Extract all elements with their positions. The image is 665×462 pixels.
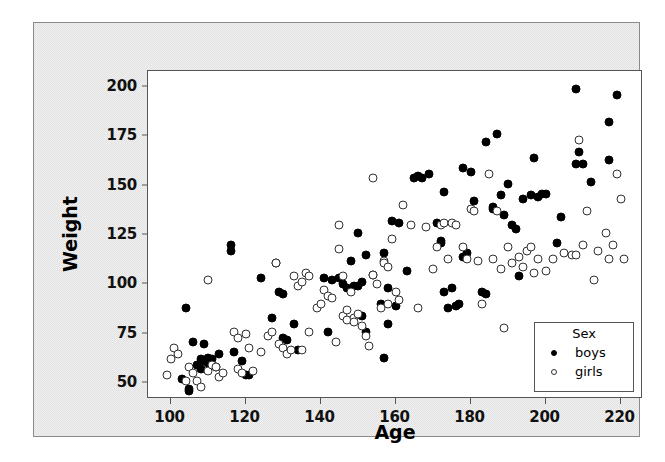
legend-label-girls: girls: [575, 364, 603, 379]
data-point-boys: [402, 266, 411, 275]
x-tick-mark: [245, 398, 246, 404]
data-point-girls: [181, 377, 190, 386]
data-point-girls: [470, 207, 479, 216]
data-point-boys: [324, 327, 333, 336]
data-point-girls: [241, 329, 250, 338]
data-point-boys: [357, 278, 366, 287]
data-point-girls: [534, 254, 543, 263]
data-point-girls: [237, 369, 246, 378]
data-point-girls: [219, 369, 228, 378]
data-point-boys: [346, 256, 355, 265]
data-point-boys: [354, 229, 363, 238]
data-point-girls: [594, 246, 603, 255]
data-point-boys: [504, 179, 513, 188]
data-point-girls: [549, 254, 558, 263]
data-point-boys: [530, 153, 539, 162]
data-point-girls: [297, 345, 306, 354]
data-point-girls: [601, 229, 610, 238]
data-point-girls: [605, 254, 614, 263]
x-tick-mark: [170, 398, 171, 404]
data-point-girls: [335, 244, 344, 253]
data-point-girls: [526, 242, 535, 251]
data-point-boys: [511, 225, 520, 234]
scatter-plot-figure: Weight 5075100125150175200 1001201401601…: [0, 0, 665, 462]
data-point-girls: [316, 300, 325, 309]
data-point-girls: [620, 254, 629, 263]
legend-label-boys: boys: [575, 345, 606, 360]
data-point-boys: [496, 191, 505, 200]
data-point-girls: [271, 258, 280, 267]
data-point-boys: [579, 159, 588, 168]
data-point-girls: [369, 173, 378, 182]
data-point-girls: [361, 331, 370, 340]
data-point-girls: [541, 266, 550, 275]
data-point-boys: [279, 290, 288, 299]
data-point-boys: [515, 272, 524, 281]
data-point-girls: [357, 321, 366, 330]
data-point-girls: [414, 304, 423, 313]
data-point-girls: [256, 347, 265, 356]
data-point-boys: [541, 189, 550, 198]
data-point-girls: [384, 300, 393, 309]
data-point-boys: [290, 319, 299, 328]
data-point-girls: [504, 242, 513, 251]
data-point-girls: [335, 221, 344, 230]
data-point-girls: [477, 300, 486, 309]
data-point-boys: [481, 290, 490, 299]
data-point-girls: [432, 242, 441, 251]
legend-box: Sex boys girls: [534, 322, 634, 392]
data-point-boys: [226, 246, 235, 255]
data-point-girls: [327, 294, 336, 303]
data-point-girls: [399, 201, 408, 210]
legend-item-girls: girls: [535, 362, 633, 381]
data-point-girls: [616, 195, 625, 204]
data-point-boys: [395, 219, 404, 228]
data-point-girls: [245, 343, 254, 352]
x-tick-mark: [395, 398, 396, 404]
legend-marker-boys-icon: [547, 350, 561, 356]
legend-marker-girls-icon: [547, 369, 561, 375]
data-point-boys: [267, 313, 276, 322]
data-point-girls: [500, 323, 509, 332]
data-point-boys: [605, 155, 614, 164]
x-tick-mark: [545, 398, 546, 404]
data-point-girls: [305, 272, 314, 281]
data-point-boys: [185, 387, 194, 396]
data-point-girls: [444, 254, 453, 263]
data-point-girls: [342, 306, 351, 315]
data-point-girls: [395, 296, 404, 305]
data-point-girls: [459, 242, 468, 251]
data-point-boys: [575, 148, 584, 157]
data-point-girls: [492, 207, 501, 216]
data-point-girls: [519, 262, 528, 271]
data-point-girls: [162, 371, 171, 380]
data-point-boys: [425, 169, 434, 178]
data-point-girls: [609, 240, 618, 249]
data-point-girls: [372, 280, 381, 289]
data-point-girls: [346, 288, 355, 297]
data-point-boys: [571, 84, 580, 93]
data-point-boys: [492, 130, 501, 139]
data-point-boys: [440, 187, 449, 196]
data-point-girls: [339, 272, 348, 281]
data-point-boys: [447, 284, 456, 293]
x-tick-mark: [320, 398, 321, 404]
x-tick-mark: [620, 398, 621, 404]
data-point-boys: [552, 238, 561, 247]
data-point-girls: [462, 254, 471, 263]
data-point-girls: [530, 268, 539, 277]
data-point-girls: [204, 276, 213, 285]
data-point-boys: [189, 337, 198, 346]
data-point-boys: [181, 304, 190, 313]
data-point-boys: [215, 349, 224, 358]
data-point-girls: [406, 221, 415, 230]
data-point-girls: [369, 270, 378, 279]
data-point-boys: [556, 213, 565, 222]
x-tick-mark: [470, 398, 471, 404]
figure-background-panel: Weight 5075100125150175200 1001201401601…: [33, 22, 640, 437]
data-point-girls: [571, 250, 580, 259]
data-point-boys: [361, 250, 370, 259]
data-point-girls: [489, 254, 498, 263]
data-point-girls: [286, 345, 295, 354]
data-point-girls: [496, 264, 505, 273]
